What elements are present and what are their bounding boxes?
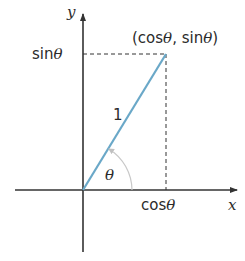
x-axis-label: x: [228, 196, 237, 214]
radius-line: [83, 54, 166, 190]
cos-label: cosθ: [141, 196, 175, 214]
sin-label: sinθ: [32, 45, 63, 63]
unit-circle-diagram: y x (cosθ, sinθ) sinθ cosθ 1 θ: [0, 0, 245, 261]
radius-label: 1: [113, 106, 123, 124]
point-label: (cosθ, sinθ): [132, 29, 218, 47]
angle-label: θ: [105, 166, 114, 184]
y-axis-label: y: [66, 3, 76, 21]
